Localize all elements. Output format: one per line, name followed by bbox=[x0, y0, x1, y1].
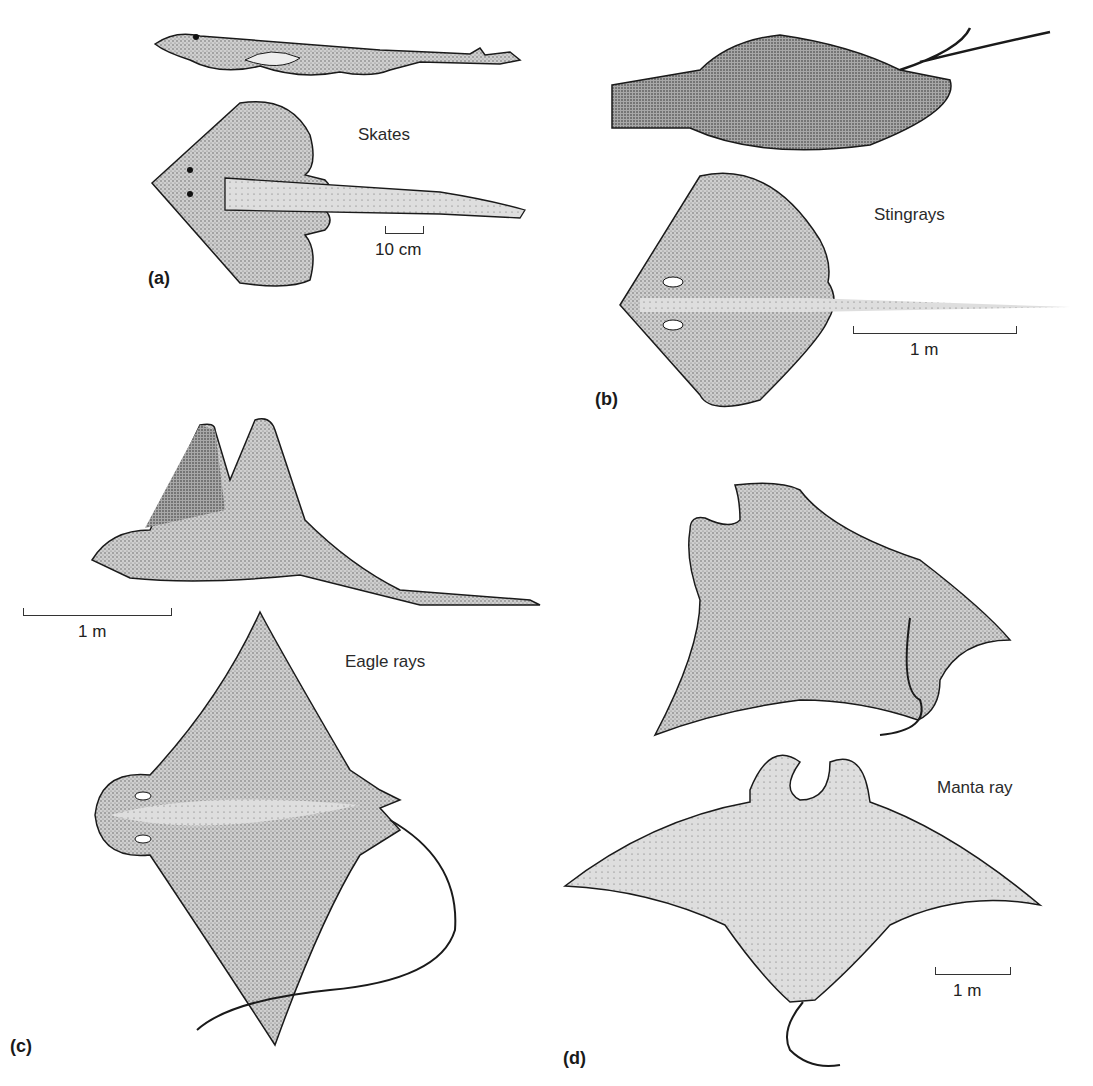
scale-label-eagle-rays: 1 m bbox=[78, 622, 106, 642]
scale-bar-manta-ray bbox=[935, 967, 1011, 975]
scale-label-stingrays: 1 m bbox=[910, 340, 938, 360]
manta-ray-dorsal-view bbox=[565, 755, 1040, 1066]
stingray-side-view bbox=[612, 28, 1050, 150]
group-label-manta-ray: Manta ray bbox=[937, 778, 1013, 798]
skate-dorsal-view bbox=[152, 102, 525, 286]
panel-label-b: (b) bbox=[595, 389, 618, 410]
scale-label-manta-ray: 1 m bbox=[953, 981, 981, 1001]
stingray-dorsal-view bbox=[620, 173, 1070, 406]
eagle-ray-dorsal-view bbox=[95, 612, 455, 1045]
panel-label-c: (c) bbox=[10, 1036, 32, 1057]
skate-side-view bbox=[155, 34, 520, 75]
group-label-skates: Skates bbox=[358, 125, 410, 145]
ray-illustrations bbox=[0, 0, 1093, 1086]
scale-bar-stingrays bbox=[853, 326, 1017, 334]
scale-bar-eagle-rays bbox=[23, 608, 172, 616]
group-label-eagle-rays: Eagle rays bbox=[345, 652, 425, 672]
panel-label-a: (a) bbox=[148, 268, 170, 289]
scale-label-skates: 10 cm bbox=[375, 240, 421, 260]
group-label-stingrays: Stingrays bbox=[874, 205, 945, 225]
scale-bar-skates bbox=[385, 226, 424, 234]
manta-ray-oblique-view bbox=[655, 483, 1010, 735]
eagle-ray-side-view bbox=[92, 419, 540, 605]
panel-label-d: (d) bbox=[563, 1048, 586, 1069]
